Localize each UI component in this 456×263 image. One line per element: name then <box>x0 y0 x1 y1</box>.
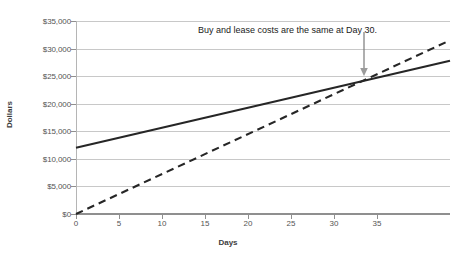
gridline-10000 <box>76 159 450 160</box>
y-tick-label-10000: $10,000 <box>43 154 71 163</box>
gridline-25000 <box>76 76 450 77</box>
y-tick-label-35000: $35,000 <box>43 17 71 26</box>
plot-area <box>76 21 450 214</box>
x-tick-label-0: 0 <box>74 219 78 228</box>
gridline-5000 <box>76 186 450 187</box>
x-tick-label-20: 20 <box>244 219 253 228</box>
y-tick-label-20000: $20,000 <box>43 99 71 108</box>
y-tick-label-30000: $30,000 <box>43 44 71 53</box>
y-tick-label-5000: $5,000 <box>47 182 71 191</box>
y-axis-line <box>76 21 77 214</box>
x-tick-label-30: 30 <box>330 219 339 228</box>
x-axis-line <box>76 213 450 215</box>
y-tick-label-0: $0 <box>62 210 71 219</box>
x-tick-label-15: 15 <box>201 219 210 228</box>
gridline-15000 <box>76 131 450 132</box>
gridline-35000 <box>76 21 450 22</box>
annotation-arrow-icon <box>356 32 372 76</box>
gridline-20000 <box>76 104 450 105</box>
x-tick-label-25: 25 <box>287 219 296 228</box>
x-axis-title: Days <box>0 238 456 247</box>
y-axis-title: Dollars <box>5 90 14 140</box>
x-tick-label-5: 5 <box>117 219 121 228</box>
y-tick-label-15000: $15,000 <box>43 127 71 136</box>
annotation-label: Buy and lease costs are the same at Day … <box>198 25 377 35</box>
x-tick-label-35: 35 <box>373 219 382 228</box>
y-tick-label-25000: $25,000 <box>43 72 71 81</box>
chart-container: $35,000 $30,000 $25,000 $20,000 $15,000 … <box>0 0 456 263</box>
x-tick-label-10: 10 <box>158 219 167 228</box>
gridline-30000 <box>76 49 450 50</box>
